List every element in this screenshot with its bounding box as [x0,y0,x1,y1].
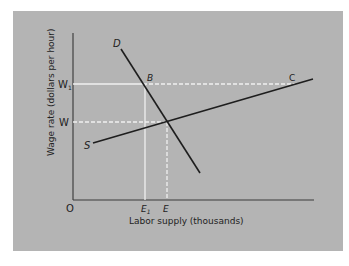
y-tick-w1: W1 [58,79,72,91]
chart-svg: D S B C W1 W O E1 E Labor supply (thousa… [0,0,349,266]
point-b-label: B [147,73,153,83]
point-c-label: C [289,73,295,83]
y-tick-w: W [59,117,69,128]
x-tick-e: E [163,204,169,214]
supply-curve [93,79,313,143]
demand-curve [121,49,200,173]
x-tick-e1: E1 [141,204,151,215]
y-axis-title: Wage rate (dollars per hour) [46,28,56,156]
x-axis-title: Labor supply (thousands) [129,216,244,226]
demand-label: D [113,38,121,49]
origin-label: O [66,203,74,214]
supply-label: S [84,140,91,151]
